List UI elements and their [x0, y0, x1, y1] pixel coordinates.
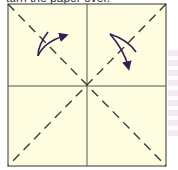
origami-diagram — [0, 0, 178, 170]
